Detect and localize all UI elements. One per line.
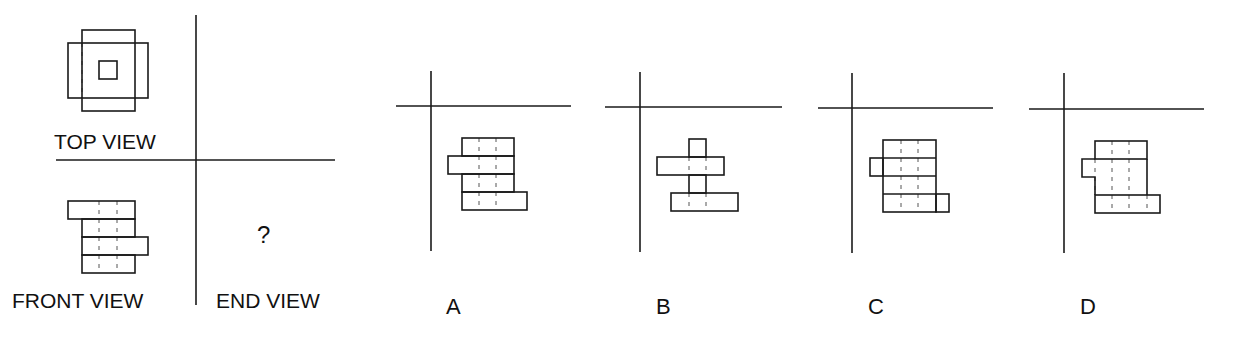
unknown-end-view-marker: ? [257,223,270,247]
block-outline [462,138,514,156]
block-outline [82,255,135,273]
block-outline [657,157,724,175]
option-d-drawing[interactable] [1029,73,1204,253]
block-outline [68,201,135,219]
top-view-label: TOP VIEW [54,131,156,152]
block-outline [936,194,949,212]
block-outline [462,192,527,210]
block-outline [671,193,738,211]
block-outline [82,30,135,111]
block-outline [1095,141,1147,159]
block-outline [82,237,148,255]
block-outline [870,158,883,176]
main-quadrant-axes [56,15,335,305]
front-view-label: FRONT VIEW [12,290,143,311]
option-a-drawing[interactable] [396,71,571,251]
block-outline [99,61,117,79]
option-b-drawing[interactable] [605,72,782,252]
option-a-label[interactable]: A [446,296,461,318]
block-outline [448,156,514,174]
block-outline [82,219,135,237]
block-outline [68,43,148,98]
block-outline [689,139,706,157]
block-outline [1095,195,1160,213]
orthographic-diagram [0,0,1249,340]
option-b-label[interactable]: B [656,296,671,318]
block-outline [1082,159,1147,195]
option-c-drawing[interactable] [818,73,993,253]
block-outline [689,175,706,193]
top-view-drawing [68,30,148,111]
option-c-label[interactable]: C [868,296,884,318]
block-outline [462,174,514,192]
end-view-label: END VIEW [216,290,320,311]
front-view-drawing [68,201,148,273]
option-d-label[interactable]: D [1080,296,1096,318]
